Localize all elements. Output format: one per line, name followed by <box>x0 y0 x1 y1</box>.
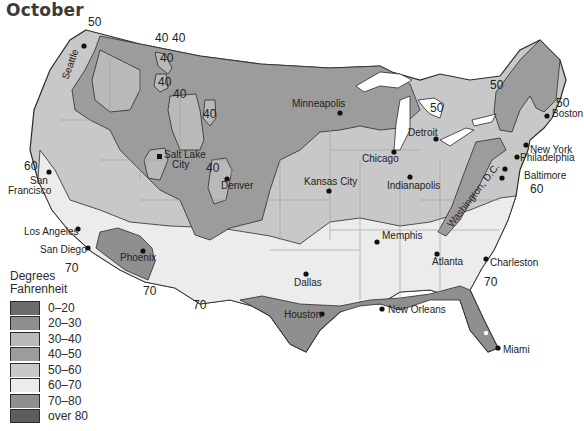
isotherm-label: 50 <box>430 101 444 115</box>
svg-text:Memphis: Memphis <box>382 230 423 241</box>
legend-swatch <box>10 332 40 346</box>
legend-swatch <box>10 409 40 423</box>
city-new-orleans: New Orleans <box>379 304 445 315</box>
isotherm-label: 40 <box>203 107 217 121</box>
legend-item: 40–50 <box>10 347 120 363</box>
svg-text:Charleston: Charleston <box>490 257 538 268</box>
svg-text:Boston: Boston <box>552 108 583 119</box>
legend-label: 20–30 <box>48 316 81 330</box>
legend-label: 60–70 <box>48 378 81 392</box>
isotherm-label: 40 <box>173 87 187 101</box>
svg-text:Chicago: Chicago <box>362 153 399 164</box>
svg-text:Atlanta: Atlanta <box>432 256 464 267</box>
svg-text:Francisco: Francisco <box>8 185 52 196</box>
svg-text:Dallas: Dallas <box>294 277 322 288</box>
legend-rows: 0–20 20–30 30–40 40–50 50–60 60–70 70–80… <box>10 300 120 424</box>
legend-item: 0–20 <box>10 300 120 316</box>
isotherm-label: 60 <box>24 159 38 173</box>
svg-text:Baltimore: Baltimore <box>524 170 567 181</box>
city-new-york: New York <box>523 142 573 155</box>
legend-swatch <box>10 378 40 392</box>
legend-item: over 80 <box>10 409 120 425</box>
svg-text:New York: New York <box>530 144 573 155</box>
city-miami: Miami <box>495 344 529 355</box>
svg-text:Houston: Houston <box>284 309 321 320</box>
svg-text:New Orleans: New Orleans <box>388 304 446 315</box>
svg-text:City: City <box>172 159 189 170</box>
legend-swatch <box>10 301 40 315</box>
legend-label: over 80 <box>48 409 88 423</box>
city-san-diego: San Diego <box>40 244 91 255</box>
city-houston: Houston <box>284 309 325 320</box>
isotherm-label: 40 <box>160 51 174 65</box>
isotherm-label: 70 <box>193 298 207 312</box>
legend-item: 20–30 <box>10 316 120 332</box>
svg-text:Los Angeles: Los Angeles <box>24 226 79 237</box>
legend-label: 0–20 <box>48 301 75 315</box>
legend-swatch <box>10 347 40 361</box>
isotherm-label: 50 <box>88 15 102 29</box>
legend-swatch <box>10 363 40 377</box>
isotherm-label: 50 <box>490 78 504 92</box>
legend-label: 70–80 <box>48 394 81 408</box>
isotherm-label: 40 <box>206 161 220 175</box>
legend-item: 50–60 <box>10 362 120 378</box>
isotherm-label: 40 <box>155 31 169 45</box>
city-charleston: Charleston <box>483 256 538 268</box>
svg-text:Kansas City: Kansas City <box>304 176 357 187</box>
isotherm-label: 40 <box>172 31 186 45</box>
lake-okeechobee <box>484 331 488 335</box>
legend-label: 50–60 <box>48 363 81 377</box>
svg-text:Miami: Miami <box>503 344 530 355</box>
legend-item: 60–70 <box>10 378 120 394</box>
isotherm-label: 70 <box>484 275 498 289</box>
svg-text:Indianapolis: Indianapolis <box>387 180 440 191</box>
legend-item: 70–80 <box>10 393 120 409</box>
svg-text:Denver: Denver <box>221 180 254 191</box>
isotherm-label: 60 <box>530 182 544 196</box>
svg-text:Phoenix: Phoenix <box>120 252 156 263</box>
city-los-angeles: Los Angeles <box>24 226 81 237</box>
legend-label: 40–50 <box>48 347 81 361</box>
isotherm-label: 70 <box>143 284 157 298</box>
svg-text:Minneapolis: Minneapolis <box>292 98 345 109</box>
isotherm-label: 40 <box>158 75 172 89</box>
legend-item: 30–40 <box>10 331 120 347</box>
legend-label: 30–40 <box>48 332 81 346</box>
legend-swatch <box>10 394 40 408</box>
legend-title-line2: Fahrenheit <box>10 283 120 296</box>
legend: Degrees Fahrenheit 0–20 20–30 30–40 40–5… <box>10 270 120 424</box>
svg-text:Detroit: Detroit <box>408 127 438 138</box>
legend-swatch <box>10 316 40 330</box>
svg-text:San Diego: San Diego <box>40 244 87 255</box>
